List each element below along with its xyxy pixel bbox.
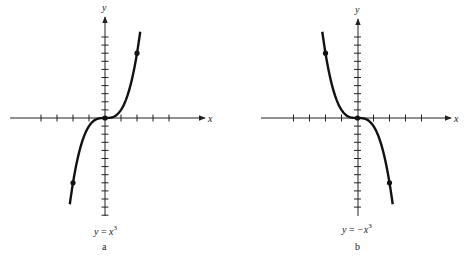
equation-caption: y = x3 xyxy=(93,224,118,237)
point-marker xyxy=(70,180,75,185)
panel-label: b xyxy=(355,241,360,252)
figure: x y y = x3 a x y y = −x3 b xyxy=(0,0,469,260)
y-axis-label: y xyxy=(101,2,107,13)
panel-label: a xyxy=(102,241,107,252)
point-marker xyxy=(134,51,139,56)
x-axis-label: x xyxy=(453,113,459,124)
panel-a-plot: x y y = x3 a xyxy=(10,2,213,252)
x-axis-label: x xyxy=(207,113,213,124)
point-marker xyxy=(323,51,328,56)
panel-b-plot: x y y = −x3 b xyxy=(261,4,459,252)
point-marker xyxy=(355,115,360,120)
point-marker xyxy=(387,180,392,185)
point-marker xyxy=(102,115,107,120)
equation-caption: y = −x3 xyxy=(341,222,372,235)
y-axis-label: y xyxy=(354,4,360,15)
